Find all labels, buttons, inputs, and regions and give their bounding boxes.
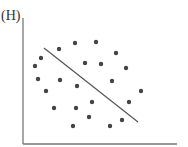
data-point <box>71 124 75 128</box>
data-point <box>90 100 94 104</box>
data-point <box>36 77 40 81</box>
data-point <box>99 62 103 66</box>
data-point <box>73 41 77 45</box>
data-point <box>75 84 79 88</box>
data-point <box>94 40 98 44</box>
data-point <box>110 79 114 83</box>
data-point <box>124 66 128 70</box>
data-point <box>39 56 43 60</box>
data-point <box>58 78 62 82</box>
data-point <box>57 47 61 51</box>
data-point <box>83 61 87 65</box>
scatter-plot <box>0 0 188 147</box>
data-point <box>74 106 78 110</box>
data-point <box>120 118 124 122</box>
data-point <box>139 89 143 93</box>
trend-line <box>44 48 138 122</box>
data-point <box>127 100 131 104</box>
data-point <box>44 89 48 93</box>
data-point <box>114 51 118 55</box>
data-point <box>33 64 37 68</box>
data-point <box>87 115 91 119</box>
data-points <box>33 40 143 128</box>
scatter-figure: (H) <box>0 0 188 147</box>
data-point <box>108 124 112 128</box>
data-point <box>52 106 56 110</box>
